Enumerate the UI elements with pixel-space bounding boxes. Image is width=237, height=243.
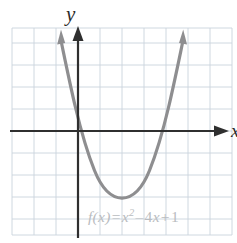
quadratic-function-graph: y x f(x)=x2–4x+1 xyxy=(0,0,237,243)
equation-exponent: 2 xyxy=(129,207,135,218)
equation-minus-sign: – xyxy=(135,208,145,225)
y-axis-label: y xyxy=(66,4,75,25)
parabola-left-arrowhead xyxy=(57,30,65,45)
x-axis-arrowhead xyxy=(214,126,229,137)
equation-constant-1: 1 xyxy=(171,208,179,225)
parabola-right-arrowhead xyxy=(179,30,187,45)
equation-fx: f(x) xyxy=(88,208,111,225)
equation-x-squared-base: x xyxy=(122,208,129,225)
equation-variable-x: x xyxy=(153,208,160,225)
equation-equals: = xyxy=(111,208,122,225)
x-axis-label: x xyxy=(231,121,237,140)
function-equation-label: f(x)=x2–4x+1 xyxy=(88,209,179,225)
equation-coefficient-4: 4 xyxy=(145,208,153,225)
equation-plus-sign: + xyxy=(160,208,171,225)
graph-canvas xyxy=(0,0,237,243)
